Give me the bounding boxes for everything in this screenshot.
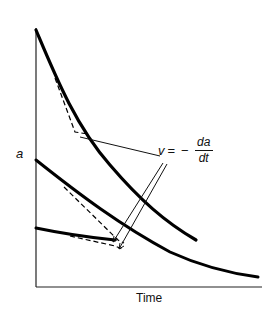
equation-variable: v [158, 143, 165, 158]
equation-fraction: da dt [195, 136, 213, 165]
curve-medium-initial [36, 160, 258, 277]
equation-numerator: da [197, 136, 210, 149]
equation-minus: − [181, 143, 189, 158]
leader-line-top [80, 137, 160, 156]
x-axis-label: Time [136, 291, 162, 305]
equation-equals: = [168, 143, 176, 158]
kinetics-diagram [0, 0, 277, 318]
curve-low-initial [36, 228, 115, 240]
equation-denominator: dt [199, 152, 209, 165]
y-axis-label: a [16, 146, 23, 161]
rate-equation: v = − da dt [158, 136, 213, 165]
curve-high-initial [36, 30, 196, 240]
